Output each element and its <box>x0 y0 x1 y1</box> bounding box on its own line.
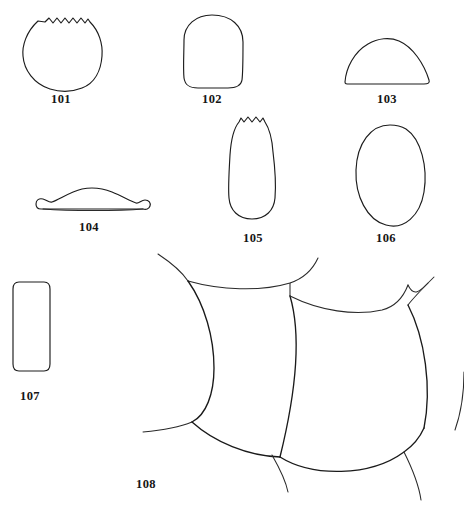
figure-106-drawing <box>356 125 425 226</box>
figure-108-scale1-right-margin <box>280 296 296 457</box>
figure-108-scale1-bottom-suture <box>192 422 280 457</box>
figure-108-lower-left-arc <box>143 422 192 432</box>
figure-plate: 101 102 103 104 105 106 107 108 <box>0 0 464 510</box>
figure-104-label: 104 <box>74 220 104 235</box>
figure-108-scale2-bottom-suture <box>280 428 424 471</box>
figure-105-outline <box>229 117 276 219</box>
figure-103-label: 103 <box>372 92 402 107</box>
figure-105-label: 105 <box>238 231 268 246</box>
figure-102-outline <box>184 15 243 88</box>
figure-108-upper-right-arc-tip <box>408 283 428 292</box>
figure-105-drawing <box>229 117 276 219</box>
plate-drawing-canvas <box>0 0 464 510</box>
figure-107-label: 107 <box>15 389 45 404</box>
figure-101-outline <box>23 18 102 91</box>
figure-108-scale3-partial-margin <box>455 372 464 430</box>
figure-108-drawing <box>143 254 464 500</box>
figure-103-outline <box>345 39 429 84</box>
figure-106-label: 106 <box>371 231 401 246</box>
figure-104-drawing <box>36 188 150 211</box>
figure-108-label: 108 <box>131 477 161 492</box>
figure-102-label: 102 <box>197 92 227 107</box>
figure-103-drawing <box>345 39 429 84</box>
figure-106-outline <box>356 125 425 226</box>
figure-108-scale2-top-suture <box>290 285 408 312</box>
figure-107-outline <box>13 282 50 371</box>
figure-102-drawing <box>184 15 243 88</box>
figure-104-outline <box>36 188 150 209</box>
figure-108-scale2-right-margin <box>408 305 427 428</box>
figure-101-drawing <box>23 18 102 91</box>
figure-108-scale1-top-suture <box>188 258 318 289</box>
figure-108-upper-left-arc <box>158 254 188 281</box>
figure-108-scale1-left-margin <box>188 281 214 422</box>
figure-101-label: 101 <box>46 92 76 107</box>
figure-107-drawing <box>13 282 50 371</box>
figure-108-lower-suture-right <box>404 452 421 500</box>
